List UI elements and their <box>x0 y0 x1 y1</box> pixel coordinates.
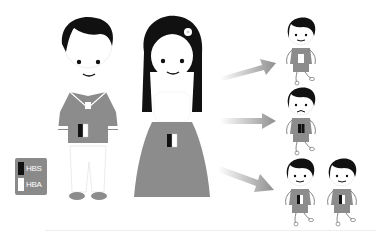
divider <box>45 230 376 231</box>
hbs-swatch <box>18 162 24 175</box>
child-figure-row2 <box>281 86 321 156</box>
genotype-legend: HBS HBA <box>15 158 47 195</box>
mother-figure <box>132 12 212 202</box>
child-figure-row1 <box>281 16 321 86</box>
child-figure-row3-a <box>280 157 320 227</box>
arrow-icon-row3 <box>218 160 276 194</box>
legend-label-hbs: HBS <box>26 164 42 173</box>
arrow-icon-row1 <box>218 55 278 81</box>
child-figure-row3-b <box>322 157 362 227</box>
legend-label-hba: HBA <box>26 180 42 189</box>
hba-swatch <box>18 178 24 191</box>
arrow-icon-row2 <box>218 112 278 130</box>
legend-item-hba: HBA <box>18 178 42 191</box>
legend-item-hbs: HBS <box>18 162 42 175</box>
father-figure <box>52 12 124 200</box>
